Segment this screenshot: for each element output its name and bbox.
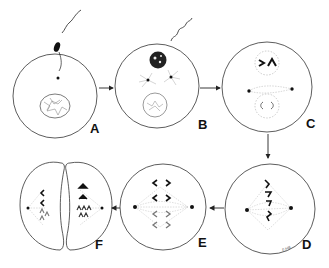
stage-a-cell <box>13 10 97 138</box>
flow-arrows <box>99 88 268 208</box>
aster-icon <box>170 76 173 79</box>
aster-icon <box>147 79 150 82</box>
stage-b-cell <box>115 18 199 128</box>
nucleus-icon <box>40 94 70 118</box>
stage-c-cell <box>222 42 312 132</box>
diagram-canvas <box>0 0 329 268</box>
stage-label-e: E <box>198 236 207 249</box>
sperm-head-icon <box>53 41 62 52</box>
stage-label-f: F <box>95 238 103 251</box>
sperm-tail-icon <box>62 10 81 33</box>
stage-label-c: C <box>306 117 315 130</box>
stage-label-d: D <box>302 238 311 251</box>
stage-label-b: B <box>198 118 207 131</box>
stage-e-cell <box>120 164 206 250</box>
stage-label-a: A <box>90 122 99 135</box>
female-pronucleus-icon <box>143 93 167 117</box>
male-pronucleus-icon <box>150 52 167 69</box>
